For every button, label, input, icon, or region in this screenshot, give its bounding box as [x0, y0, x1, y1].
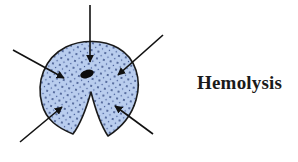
- hemolysis-diagram: Hemolysis: [0, 0, 298, 162]
- diagram-label: Hemolysis: [197, 72, 282, 94]
- cell-body: [40, 41, 138, 136]
